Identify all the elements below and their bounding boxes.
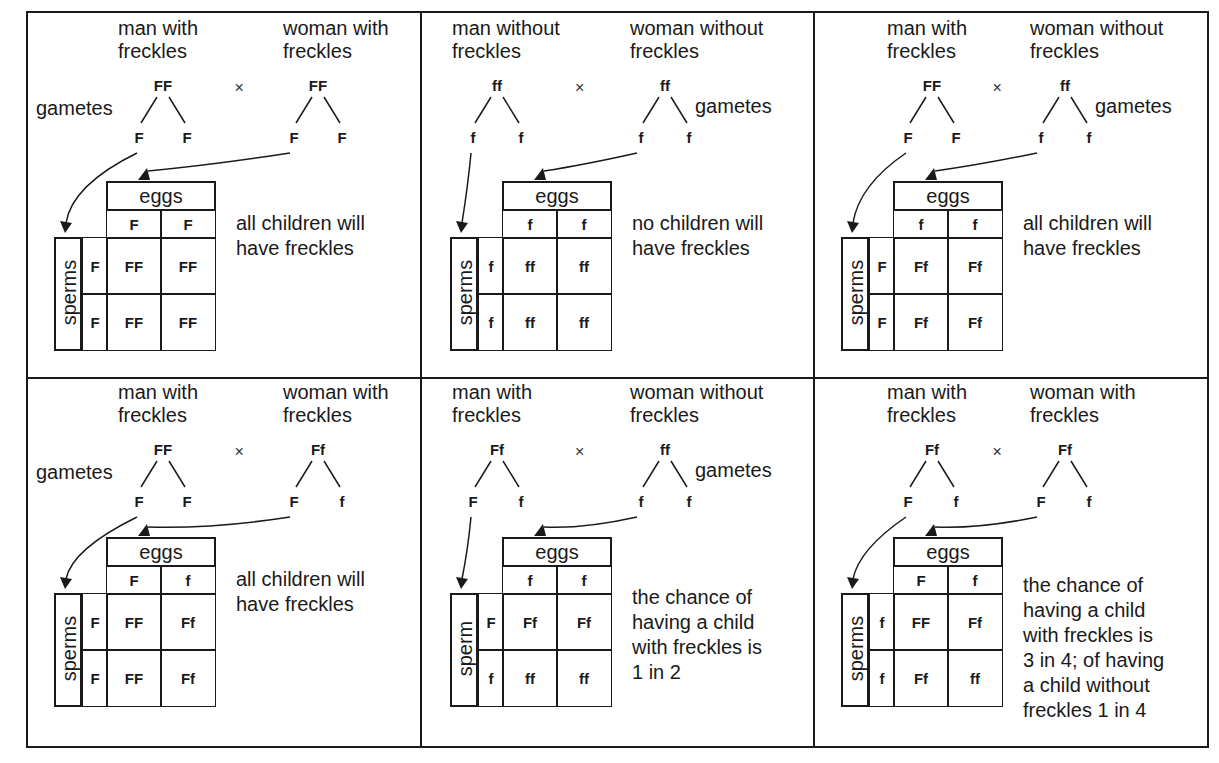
connector-lines	[815, 379, 1207, 747]
cross-panel-2: man withoutfreckleswoman withoutfreckles…	[422, 13, 814, 381]
cross-panel-3: man withfreckleswoman withoutfrecklesFFf…	[815, 13, 1207, 381]
cross-panel-1: man withfreckleswoman withfrecklesFFFF×F…	[28, 13, 420, 381]
connector-lines	[422, 13, 814, 381]
cross-panel-4: man withfreckleswoman withfrecklesFFFf×F…	[28, 379, 420, 747]
connector-lines	[28, 379, 420, 747]
arrow-heads	[847, 524, 937, 589]
connector-lines	[422, 379, 814, 747]
connector-lines	[815, 13, 1207, 381]
cross-panel-5: man withfreckleswoman withoutfrecklesFff…	[422, 379, 814, 747]
arrow-heads	[60, 168, 150, 233]
arrow-heads	[60, 524, 150, 589]
arrow-heads	[456, 168, 546, 233]
cross-panel-6: man withfreckleswoman withfrecklesFfFf×F…	[815, 379, 1207, 747]
connector-lines	[28, 13, 420, 381]
